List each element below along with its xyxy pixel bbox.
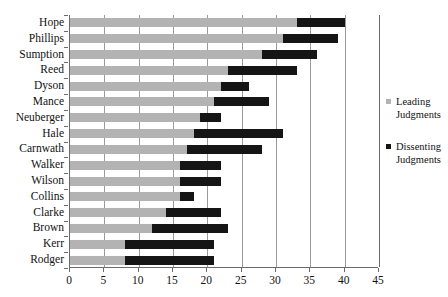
bar-segment-dissenting (283, 34, 338, 43)
y-axis-tick (64, 205, 68, 206)
x-axis-tick-0 (69, 268, 70, 272)
y-axis-tick (64, 31, 68, 32)
x-axis-tick-45 (378, 268, 379, 272)
y-axis-tick (64, 221, 68, 222)
bar-row (70, 50, 378, 59)
x-axis-label-35: 35 (304, 275, 316, 287)
y-axis-label-neuberger: Neuberger (16, 112, 64, 124)
bar-segment-dissenting (228, 66, 297, 75)
y-axis-tick (64, 236, 68, 237)
y-axis-tick (64, 47, 68, 48)
y-axis-tick (64, 110, 68, 111)
y-axis-label-hale: Hale (42, 128, 64, 140)
x-axis-label-0: 0 (66, 275, 72, 287)
y-axis-label-mance: Mance (33, 96, 64, 108)
bar-series-container (70, 15, 378, 267)
y-axis-labels: HopePhillipsSumptionReedDysonManceNeuber… (0, 15, 64, 268)
y-axis-tick (64, 94, 68, 95)
y-axis-tick (64, 189, 68, 190)
bar-segment-dissenting (166, 208, 221, 217)
y-axis-label-dyson: Dyson (34, 80, 64, 92)
dissenting-swatch-icon (386, 144, 391, 149)
bar-row (70, 97, 378, 106)
bar-segment-dissenting (180, 161, 221, 170)
y-axis-label-clarke: Clarke (33, 207, 64, 219)
plot-area-wrapper (69, 15, 378, 268)
bar-segment-dissenting (200, 113, 221, 122)
bar-segment-dissenting (187, 145, 263, 154)
gridline-45 (379, 15, 380, 267)
bar-segment-leading (70, 256, 125, 265)
x-axis-label-20: 20 (201, 275, 213, 287)
x-axis-tick-40 (344, 268, 345, 272)
bar-segment-leading (70, 145, 187, 154)
x-axis-label-10: 10 (132, 275, 144, 287)
x-axis-tick-5 (103, 268, 104, 272)
bar-segment-dissenting (297, 18, 345, 27)
y-axis-label-brown: Brown (33, 222, 64, 234)
legend-label-dissenting-line2: Judgments (396, 154, 448, 167)
y-axis-label-rodger: Rodger (30, 254, 64, 266)
y-axis-label-collins: Collins (31, 191, 64, 203)
bar-row (70, 34, 378, 43)
bar-row (70, 208, 378, 217)
legend-label-dissenting-line1: Dissenting (396, 141, 448, 154)
bar-segment-dissenting (221, 82, 248, 91)
legend-entry-dissenting: Dissenting Judgments (386, 141, 448, 166)
bar-row (70, 129, 378, 138)
y-axis-tick (64, 15, 68, 16)
bar-row (70, 18, 378, 27)
y-axis-label-hope: Hope (39, 17, 64, 29)
legend-entry-leading: Leading Judgments (386, 96, 448, 121)
bar-segment-leading (70, 50, 262, 59)
x-axis-label-40: 40 (338, 275, 350, 287)
bar-segment-leading (70, 129, 194, 138)
bar-segment-dissenting (180, 177, 221, 186)
bar-row (70, 82, 378, 91)
legend-label-leading-line1: Leading (396, 96, 448, 109)
leading-swatch-icon (386, 99, 391, 104)
x-axis-label-5: 5 (100, 275, 106, 287)
y-axis-label-sumption: Sumption (19, 49, 64, 61)
bar-row (70, 161, 378, 170)
bar-row (70, 240, 378, 249)
bar-row (70, 192, 378, 201)
bar-segment-leading (70, 208, 166, 217)
bar-segment-leading (70, 224, 152, 233)
bar-segment-leading (70, 192, 180, 201)
x-axis-label-25: 25 (235, 275, 247, 287)
legend-label-leading-line2: Judgments (396, 109, 448, 122)
y-axis-label-reed: Reed (40, 64, 64, 76)
bar-row (70, 224, 378, 233)
bar-segment-dissenting (194, 129, 283, 138)
y-axis-label-carnwath: Carnwath (19, 143, 64, 155)
y-axis-tick (64, 126, 68, 127)
bar-segment-dissenting (262, 50, 317, 59)
bar-segment-leading (70, 34, 283, 43)
bar-segment-dissenting (152, 224, 228, 233)
bar-chart: HopePhillipsSumptionReedDysonManceNeuber… (0, 0, 448, 297)
bar-segment-dissenting (214, 97, 269, 106)
y-axis-tick (64, 157, 68, 158)
bar-segment-leading (70, 240, 125, 249)
x-axis-tick-20 (206, 268, 207, 272)
x-axis-tick-10 (138, 268, 139, 272)
y-axis-tick (64, 62, 68, 63)
y-axis-tick (64, 142, 68, 143)
y-axis-tick (64, 268, 68, 269)
x-axis-tick-25 (241, 268, 242, 272)
bar-segment-leading (70, 177, 180, 186)
bar-segment-leading (70, 18, 297, 27)
x-axis: 051015202530354045 (69, 268, 378, 296)
bar-row (70, 177, 378, 186)
x-axis-label-15: 15 (166, 275, 178, 287)
bar-segment-leading (70, 113, 200, 122)
x-axis-tick-35 (309, 268, 310, 272)
chart-legend: Leading Judgments Dissenting Judgments (386, 96, 448, 186)
bar-segment-dissenting (180, 192, 194, 201)
y-axis-tick (64, 252, 68, 253)
bar-segment-leading (70, 82, 221, 91)
bar-segment-dissenting (125, 240, 214, 249)
y-axis-tick (64, 173, 68, 174)
x-axis-label-30: 30 (269, 275, 281, 287)
